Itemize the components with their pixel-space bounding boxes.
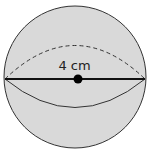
center-point — [74, 75, 83, 84]
sphere-diagram: 4 cm — [0, 0, 149, 150]
sphere-figure — [0, 0, 149, 150]
diameter-label: 4 cm — [0, 58, 149, 73]
